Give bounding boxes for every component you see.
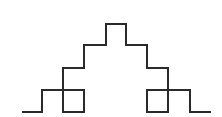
staircase-curve bbox=[0, 0, 222, 117]
curve-path bbox=[22, 24, 211, 112]
